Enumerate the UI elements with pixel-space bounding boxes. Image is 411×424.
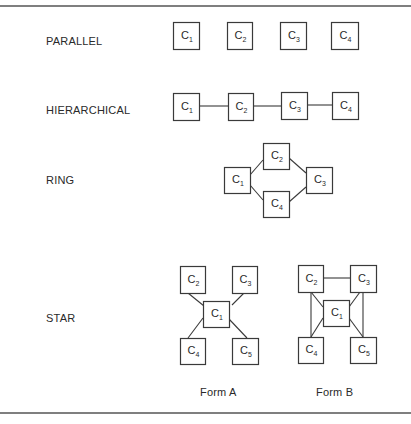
hierarchical-node-c4: C4 [333, 93, 359, 120]
star-b-node-c1: C1 [324, 301, 350, 327]
row-parallel: PARALLEL C1C2C3C4 [46, 23, 359, 50]
star-b-node-c3: C3 [351, 266, 377, 293]
star-form-a-graph: C2C3C1C4C5 [181, 267, 259, 365]
caption-form-b: Form B [316, 386, 353, 398]
ring-edge [250, 160, 263, 175]
star-a-edge [229, 319, 247, 338]
hierarchical-node-c2: C2 [229, 94, 254, 121]
row-ring: RING C2C1C3C4 [46, 144, 333, 218]
ring-node-c2: C2 [264, 144, 290, 170]
star-b-edge [349, 292, 360, 307]
topology-diagram: PARALLEL C1C2C3C4 HIERARCHICAL C1C2C3C4 … [0, 0, 411, 424]
star-b-node-c4: C4 [299, 338, 324, 364]
caption-form-a: Form A [200, 386, 237, 398]
ring-graph: C2C1C3C4 [225, 144, 333, 218]
parallel-node-c3: C3 [281, 23, 307, 50]
star-b-edge [349, 318, 363, 337]
star-b-edge [311, 318, 323, 337]
ring-edge [250, 185, 263, 200]
star-a-node-c3: C3 [233, 267, 258, 294]
hierarchical-node-c3: C3 [282, 93, 308, 120]
row-label-ring: RING [46, 174, 74, 186]
star-a-node-c1: C1 [204, 302, 230, 328]
ring-node-c1: C1 [225, 168, 251, 194]
parallel-graph: C1C2C3C4 [174, 23, 359, 50]
row-label-parallel: PARALLEL [46, 35, 102, 47]
row-label-hierarchical: HIERARCHICAL [46, 104, 130, 116]
ring-edge [289, 158, 306, 173]
row-label-star: STAR [46, 312, 75, 324]
star-b-node-c2: C2 [299, 266, 324, 293]
ring-node-c3: C3 [307, 168, 333, 194]
ring-node-c4: C4 [264, 192, 290, 218]
parallel-node-c1: C1 [174, 23, 200, 50]
row-star: STAR C2C3C1C4C5 C2C3C1C4C5 Form A Form B [46, 266, 377, 399]
hierarchical-node-c1: C1 [174, 94, 200, 121]
parallel-node-c4: C4 [332, 23, 359, 50]
star-a-node-c2: C2 [181, 267, 206, 294]
ring-edge [289, 187, 306, 202]
star-a-edge [232, 293, 244, 305]
star-a-node-c4: C4 [181, 339, 206, 365]
star-a-edge [188, 293, 204, 306]
star-a-edge [188, 318, 203, 338]
hierarchical-graph: C1C2C3C4 [174, 93, 359, 121]
star-b-edge [311, 292, 323, 307]
row-hierarchical: HIERARCHICAL C1C2C3C4 [46, 93, 359, 121]
star-form-b-graph: C2C3C1C4C5 [299, 266, 377, 364]
star-a-node-c5: C5 [233, 339, 259, 365]
parallel-node-c2: C2 [228, 23, 253, 50]
star-b-node-c5: C5 [351, 338, 377, 364]
